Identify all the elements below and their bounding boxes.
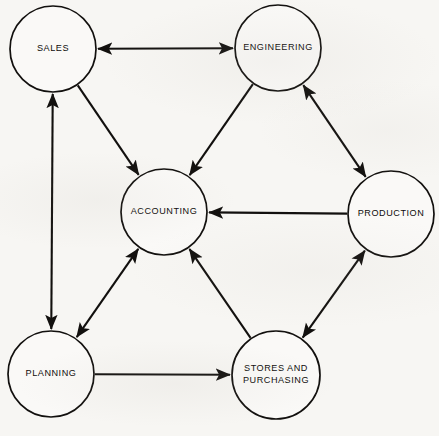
- edge-planning-accounting: [77, 249, 139, 337]
- edge-production-accounting: [209, 212, 347, 213]
- node-engineering[interactable]: ENGINEERING: [235, 5, 321, 91]
- edge-sales-planning: [51, 94, 52, 329]
- node-sales[interactable]: SALES: [10, 6, 96, 92]
- node-planning[interactable]: PLANNING: [8, 331, 94, 417]
- diagram-canvas: SALESENGINEERINGACCOUNTINGPRODUCTIONPLAN…: [0, 0, 439, 436]
- node-accounting[interactable]: ACCOUNTING: [121, 169, 207, 255]
- flow-diagram: SALESENGINEERINGACCOUNTINGPRODUCTIONPLAN…: [0, 0, 439, 436]
- edge-engineering-production: [303, 85, 365, 177]
- node-label-planning: PLANNING: [26, 368, 77, 378]
- node-stores[interactable]: STORES ANDPURCHASING: [232, 331, 320, 419]
- node-label-accounting: ACCOUNTING: [131, 206, 198, 216]
- edge-planning-stores: [95, 374, 230, 375]
- edge-sales-accounting: [78, 85, 139, 174]
- node-label-production: PRODUCTION: [358, 208, 425, 218]
- node-label-engineering: ENGINEERING: [243, 42, 313, 52]
- node-label-sales: SALES: [37, 43, 69, 53]
- node-label-stores: STORES ANDPURCHASING: [243, 364, 309, 386]
- edge-sales-engineering: [98, 48, 233, 49]
- edge-engineering-accounting: [190, 84, 253, 175]
- edge-production-stores: [303, 251, 365, 338]
- node-production[interactable]: PRODUCTION: [348, 171, 434, 257]
- edge-stores-accounting: [189, 249, 250, 338]
- edge-layer: [51, 48, 365, 375]
